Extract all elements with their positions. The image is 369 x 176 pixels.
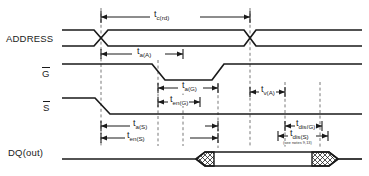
timing-label-ta-s-sub: a(S) <box>136 123 148 130</box>
dq-transition-hatching <box>196 152 338 166</box>
timing-label-tdis-s-sub: dis(S) <box>293 133 309 140</box>
timing-label-ta-s: ta(S) <box>132 119 148 130</box>
signal-label-address-text: ADDRESS <box>6 33 53 44</box>
timing-label-ten-g-sub: en(G) <box>173 99 189 106</box>
signal-label-address: ADDRESS <box>6 33 53 44</box>
timing-label-ta-a: ta(A) <box>136 47 152 58</box>
signal-label-dq: DQ(out) <box>8 147 43 158</box>
signal-label-s-text: S <box>43 101 50 113</box>
arrow-tc-rd <box>101 11 250 23</box>
signal-label-g-text: G <box>42 67 50 79</box>
waveform-g <box>62 64 362 80</box>
timing-label-ten-g: ten(G) <box>169 95 189 106</box>
s-trace <box>62 98 362 114</box>
timing-label-ten-s-sub: en(S) <box>130 135 145 142</box>
waveform-s <box>62 98 362 114</box>
timing-label-tdis-s: tdis(S) <box>289 129 310 140</box>
timing-label-tv-a: tv(A) <box>260 85 276 96</box>
signal-label-g: G <box>42 67 50 79</box>
arrow-ta-s <box>101 121 218 131</box>
timing-label-ta-a-sub: a(A) <box>140 51 152 58</box>
arrow-ten-s <box>101 133 218 143</box>
timing-diagram-figure: ADDRESS G S DQ(out) tc(rd) ta(A) ta(G) t… <box>0 0 369 176</box>
notes-reference: (see notes 9,13) <box>283 141 312 145</box>
signal-label-s: S <box>43 101 50 113</box>
dq-hatch-left <box>196 152 214 166</box>
timing-label-ten-s: ten(S) <box>126 131 146 142</box>
waveform-address <box>62 30 362 46</box>
signal-label-dq-text: DQ(out) <box>8 147 43 158</box>
timing-label-tv-a-sub: v(A) <box>264 89 275 96</box>
timing-label-ta-g-sub: a(G) <box>185 85 197 92</box>
timing-label-tc-rd: tc(rd) <box>153 10 170 21</box>
dq-hatch-right <box>312 152 338 166</box>
g-trace <box>62 64 362 80</box>
timing-label-tc-rd-sub: c(rd) <box>157 14 170 21</box>
timing-label-ta-g: ta(G) <box>181 81 198 92</box>
